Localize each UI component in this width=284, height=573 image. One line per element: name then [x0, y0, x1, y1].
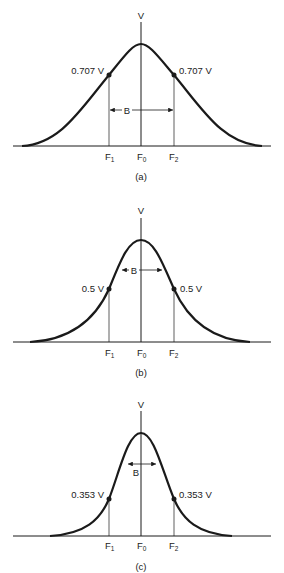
right-level-label: 0.707 V	[179, 65, 212, 76]
left-level-label: 0.5 V	[82, 283, 105, 294]
f1-marker-dot	[107, 73, 112, 78]
f1-label: F1	[105, 540, 115, 552]
right-level-label: 0.353 V	[179, 489, 212, 500]
v-axis-label: V	[138, 205, 145, 216]
v-axis-label: V	[138, 10, 145, 21]
left-level-label: 0.353 V	[71, 489, 104, 500]
f0-label: F0	[137, 540, 147, 552]
bandwidth-label: B	[133, 467, 139, 478]
f1-label: F1	[105, 347, 115, 359]
f0-label: F0	[137, 151, 147, 163]
f0-label: F0	[137, 347, 147, 359]
f1-label: F1	[105, 151, 115, 163]
panel-caption: (b)	[135, 367, 147, 378]
panel-a: V 0.707 V 0.707 V B F1 F0 F2 (a)	[13, 10, 271, 182]
response-curve	[22, 44, 262, 146]
f2-marker-dot	[172, 287, 177, 292]
bandwidth-label: B	[131, 265, 137, 276]
f2-marker-dot	[172, 497, 177, 502]
response-curve	[30, 240, 250, 342]
panel-b: V 0.5 V 0.5 V B F1 F0 F2 (b)	[13, 205, 271, 378]
right-level-label: 0.5 V	[180, 283, 203, 294]
f1-marker-dot	[107, 497, 112, 502]
f1-marker-dot	[107, 287, 112, 292]
left-level-label: 0.707 V	[71, 65, 104, 76]
bandwidth-label: B	[124, 105, 130, 116]
panel-c: V 0.353 V 0.353 V B F1 F0 F2 (c)	[13, 399, 271, 572]
panel-caption: (c)	[135, 561, 146, 572]
f2-label: F2	[169, 151, 179, 163]
f2-label: F2	[169, 347, 179, 359]
panel-caption: (a)	[135, 171, 147, 182]
v-axis-label: V	[138, 399, 145, 410]
f2-marker-dot	[172, 73, 177, 78]
resonance-curves-diagram: V 0.707 V 0.707 V B F1 F0 F2 (a) V 0.5 V…	[0, 0, 284, 573]
f2-label: F2	[169, 540, 179, 552]
